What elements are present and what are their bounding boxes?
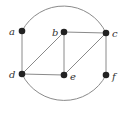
label-f: f — [111, 71, 118, 82]
label-d: d — [9, 69, 15, 80]
node-b — [61, 29, 68, 36]
node-a — [19, 28, 26, 35]
edge-c-e — [64, 33, 106, 75]
node-c — [103, 30, 110, 37]
node-d — [19, 71, 26, 78]
node-e — [61, 72, 68, 79]
label-c: c — [112, 28, 118, 39]
label-a: a — [9, 26, 15, 37]
node-f — [103, 72, 110, 79]
edge-b-c — [64, 32, 106, 33]
label-b: b — [52, 27, 58, 38]
label-e: e — [70, 71, 76, 82]
graph-diagram: a b c d e f — [0, 0, 131, 113]
edge-d-e — [22, 74, 64, 75]
edge-b-d — [22, 32, 64, 74]
